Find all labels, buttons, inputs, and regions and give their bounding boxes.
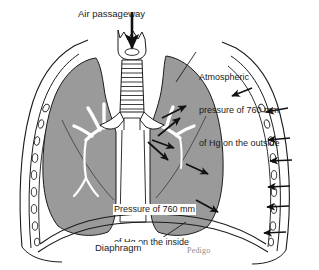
rib: [34, 238, 39, 246]
body-outline-bottom-right: [252, 250, 286, 264]
label-atmospheric-line-1: Atmospheric: [199, 72, 280, 83]
rib: [31, 205, 36, 214]
label-atmospheric-line-2: pressure of 760 mm: [199, 105, 280, 116]
rib: [271, 171, 276, 180]
respiratory-pressure-figure: Air passageway Atmospheric pressure of 7…: [0, 0, 319, 270]
glottis: [125, 49, 139, 56]
label-internal-pressure: Pressure of 760 mm of Hg on the inside: [113, 182, 196, 270]
rib: [31, 188, 36, 197]
rib: [32, 222, 37, 230]
watermark-pedigo: Pedigo: [187, 245, 210, 256]
rib: [270, 222, 275, 230]
label-atmospheric-line-3: of Hg on the outside: [199, 138, 280, 149]
pressure-arrow-outside: [267, 206, 289, 207]
lung-left: [43, 58, 116, 235]
rib: [32, 153, 38, 162]
pressure-arrow-outside: [268, 186, 290, 187]
carina: [124, 118, 140, 132]
label-diaphragm: Diaphragm: [94, 242, 142, 253]
lung-left-body: [43, 58, 116, 235]
label-atmospheric-pressure: Atmospheric pressure of 760 mm of Hg on …: [199, 50, 280, 171]
label-air-passageway: Air passageway: [78, 8, 145, 19]
pressure-arrow-outside: [264, 232, 286, 233]
rib: [271, 188, 276, 197]
rib: [31, 171, 36, 180]
rib: [268, 238, 273, 246]
label-inside-line-1: Pressure of 760 mm: [113, 204, 196, 215]
